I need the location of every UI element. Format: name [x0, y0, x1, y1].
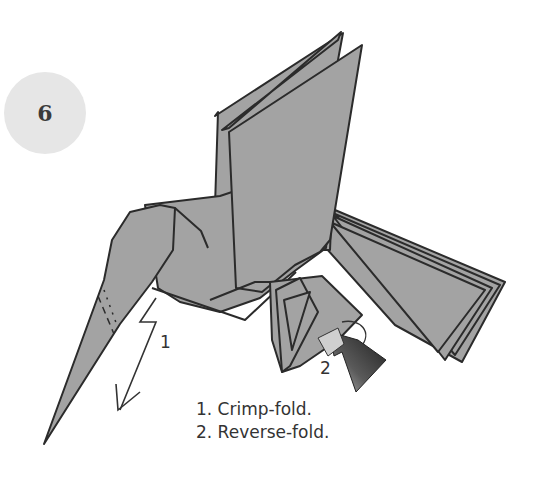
arrow-label-1: 1: [160, 332, 171, 352]
instructions: 1. Crimp-fold. 2. Reverse-fold.: [196, 398, 329, 444]
instruction-reverse-fold: 2. Reverse-fold.: [196, 421, 329, 444]
instruction-crimp-fold: 1. Crimp-fold.: [196, 398, 329, 421]
arrow-label-2: 2: [320, 358, 331, 378]
